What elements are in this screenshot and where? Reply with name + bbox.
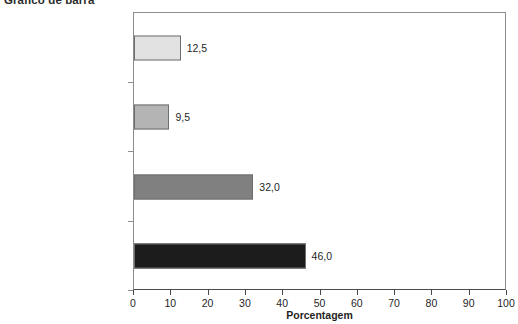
bar-value-label: 12,5: [187, 42, 207, 54]
bar-value-label: 9,5: [175, 111, 190, 123]
x-tick-label: 100: [497, 297, 515, 309]
x-axis-title: Porcentagem: [133, 309, 506, 321]
bar-row: 9,5: [134, 83, 505, 153]
bar-row: 46,0: [134, 222, 505, 292]
bar-auxiliares-de-enfermagem: [134, 105, 169, 130]
plot-area: 12,5 9,5 32,0 46,0: [133, 12, 506, 290]
bar-row: 12,5: [134, 13, 505, 83]
x-tick: [320, 290, 321, 295]
x-tick: [506, 290, 507, 295]
x-tick-label: 50: [314, 297, 326, 309]
x-tick: [357, 290, 358, 295]
x-tick: [133, 290, 134, 295]
x-tick: [431, 290, 432, 295]
bar-tecnicos-de-enfermagem: [134, 174, 253, 199]
bar-chefes-de-enfermagem: [134, 244, 306, 269]
x-tick-label: 0: [130, 297, 136, 309]
x-tick: [394, 290, 395, 295]
x-tick: [170, 290, 171, 295]
bar-value-label: 46,0: [312, 250, 332, 262]
x-tick: [282, 290, 283, 295]
x-tick-label: 30: [239, 297, 251, 309]
x-tick: [208, 290, 209, 295]
x-tick-label: 20: [202, 297, 214, 309]
bar-medicos: [134, 35, 181, 60]
chart-title: Gráfico de barra: [4, 0, 94, 6]
x-tick-label: 70: [388, 297, 400, 309]
x-tick-label: 10: [164, 297, 176, 309]
x-tick-label: 80: [426, 297, 438, 309]
x-tick: [469, 290, 470, 295]
x-tick: [245, 290, 246, 295]
bar-row: 32,0: [134, 152, 505, 222]
x-tick-label: 60: [351, 297, 363, 309]
x-tick-label: 90: [463, 297, 475, 309]
bar-value-label: 32,0: [259, 181, 279, 193]
chart-page: Gráfico de barra Médicos Auxiliares de e…: [0, 0, 518, 324]
x-tick-label: 40: [276, 297, 288, 309]
